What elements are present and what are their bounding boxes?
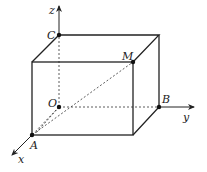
x-axis (12, 135, 32, 155)
label-x: x (18, 153, 25, 166)
label-A: A (29, 139, 38, 152)
point-C (57, 33, 61, 37)
segment-OA2 (36, 107, 59, 133)
label-y: y (182, 111, 190, 124)
point-B (157, 105, 161, 109)
box-right-edges (133, 35, 159, 135)
label-M: M (121, 50, 134, 63)
label-C: C (47, 29, 56, 42)
coordinate-box-diagram: z y x C M O B A (0, 0, 207, 172)
label-z: z (48, 4, 55, 17)
label-B: B (161, 93, 170, 106)
point-A (30, 133, 34, 137)
label-O: O (48, 97, 57, 110)
point-O (57, 105, 61, 109)
